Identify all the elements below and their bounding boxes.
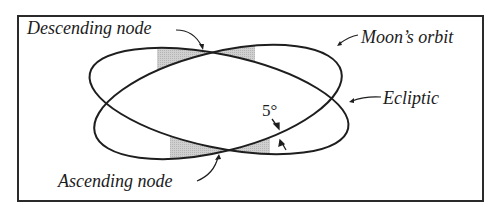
descending-node-leader xyxy=(176,30,202,47)
ascending-node-label: Ascending node xyxy=(58,172,172,190)
moons-orbit-label: Moon’s orbit xyxy=(361,28,453,46)
arrow-down-icon xyxy=(274,123,279,129)
leader-lines xyxy=(176,30,381,181)
arrowhead-icon xyxy=(349,98,354,103)
moons-orbit-leader xyxy=(339,35,358,44)
ecliptic-label: Ecliptic xyxy=(383,89,439,107)
descending-node-label: Descending node xyxy=(27,19,151,37)
shaded-wedges xyxy=(157,35,270,165)
ascending-node-leader xyxy=(197,157,218,181)
inclination-label: 5° xyxy=(262,102,277,119)
ecliptic-leader xyxy=(352,97,381,101)
arrowhead-icon xyxy=(199,44,204,50)
diagram-canvas: Descending node Moon’s orbit Ecliptic As… xyxy=(0,0,500,212)
arrowhead-icon xyxy=(215,154,221,160)
